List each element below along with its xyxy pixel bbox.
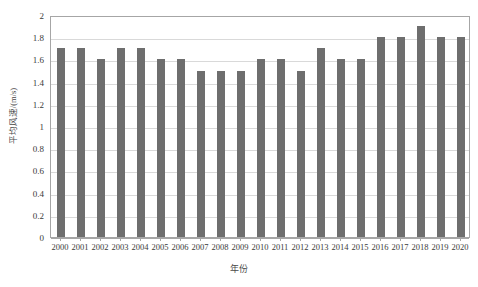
x-axis-tick-label: 2020 [452, 242, 469, 252]
bar[interactable] [117, 48, 125, 237]
x-axis-tick-label: 2008 [212, 242, 229, 252]
bar[interactable] [397, 37, 405, 237]
x-axis-tick-mark [400, 238, 401, 241]
x-axis-tick-label: 2005 [152, 242, 169, 252]
bar[interactable] [137, 48, 145, 237]
x-axis-tick-mark [360, 238, 361, 241]
plot-area [50, 16, 470, 238]
x-axis-tick-mark [120, 238, 121, 241]
x-axis-tick-label: 2004 [132, 242, 149, 252]
y-axis-tick-label: 1.4 [33, 78, 44, 87]
bar[interactable] [177, 59, 185, 237]
y-axis-title: 平均风速/(m/s) [4, 0, 20, 232]
bar[interactable] [77, 48, 85, 237]
y-axis-tick-label: 1 [40, 123, 45, 132]
x-axis-tick-label: 2000 [52, 242, 69, 252]
bar[interactable] [217, 71, 225, 238]
x-axis-tick-mark [100, 238, 101, 241]
x-axis-tick-label: 2015 [352, 242, 369, 252]
x-axis-tick-mark [80, 238, 81, 241]
x-axis-tick-label: 2010 [252, 242, 269, 252]
x-axis-tick-label: 2007 [192, 242, 209, 252]
y-axis-tick-label: 1.2 [33, 100, 44, 109]
x-axis-tick-label: 2016 [372, 242, 389, 252]
x-axis-tick-mark [240, 238, 241, 241]
y-axis-tick-label: 1.6 [33, 56, 44, 65]
x-axis-tick-mark [440, 238, 441, 241]
wind-speed-bar-chart: 平均风速/(m/s) 00.20.40.60.811.21.41.61.82 2… [0, 0, 478, 287]
bar[interactable] [297, 71, 305, 238]
y-axis-tick-label: 0 [40, 234, 45, 243]
bar[interactable] [437, 37, 445, 237]
y-axis-tick-labels: 00.20.40.60.811.21.41.61.82 [20, 16, 48, 238]
x-axis-tick-label: 2006 [172, 242, 189, 252]
x-axis-tick-label: 2012 [292, 242, 309, 252]
x-axis-tick-mark [220, 238, 221, 241]
x-axis-tick-mark [460, 238, 461, 241]
y-axis-tick-label: 0.6 [33, 167, 44, 176]
x-axis-tick-mark [160, 238, 161, 241]
x-axis-tick-mark [260, 238, 261, 241]
bar[interactable] [417, 26, 425, 237]
x-axis-tick-mark [320, 238, 321, 241]
bar[interactable] [257, 59, 265, 237]
x-axis-tick-label: 2013 [312, 242, 329, 252]
bar[interactable] [237, 71, 245, 238]
bar[interactable] [277, 59, 285, 237]
y-axis-tick-label: 1.8 [33, 34, 44, 43]
x-axis-tick-label: 2011 [272, 242, 289, 252]
y-axis-tick-label: 0.8 [33, 145, 44, 154]
x-axis-tick-mark [300, 238, 301, 241]
bars-layer [51, 17, 469, 237]
x-axis-tick-mark [60, 238, 61, 241]
bar[interactable] [97, 59, 105, 237]
x-axis-tick-mark [280, 238, 281, 241]
bar[interactable] [157, 59, 165, 237]
x-axis-tick-mark [380, 238, 381, 241]
y-axis-tick-label: 0.2 [33, 211, 44, 220]
x-axis-title: 年份 [0, 262, 478, 275]
x-axis-tick-label: 2018 [412, 242, 429, 252]
bar[interactable] [377, 37, 385, 237]
bar[interactable] [317, 48, 325, 237]
x-axis-tick-label: 2001 [72, 242, 89, 252]
x-axis-tick-mark [200, 238, 201, 241]
x-axis-tick-mark [420, 238, 421, 241]
x-axis-tick-label: 2017 [392, 242, 409, 252]
bar[interactable] [197, 71, 205, 238]
bar[interactable] [457, 37, 465, 237]
y-axis-tick-label: 0.4 [33, 189, 44, 198]
x-axis-tick-mark [140, 238, 141, 241]
x-axis-tick-label: 2014 [332, 242, 349, 252]
bar[interactable] [57, 48, 65, 237]
x-axis-title-text: 年份 [230, 264, 248, 274]
x-axis-tick-mark [180, 238, 181, 241]
bar[interactable] [357, 59, 365, 237]
x-axis-tick-label: 2003 [112, 242, 129, 252]
x-axis-tick-label: 2009 [232, 242, 249, 252]
x-axis-tick-label: 2002 [92, 242, 109, 252]
x-axis-tick-label: 2019 [432, 242, 449, 252]
y-axis-tick-label: 2 [40, 12, 45, 21]
bar[interactable] [337, 59, 345, 237]
x-axis-tick-labels: 2000200120022003200420052006200720082009… [50, 242, 470, 256]
x-axis-tick-mark [340, 238, 341, 241]
y-axis-title-text: 平均风速/(m/s) [6, 88, 18, 144]
